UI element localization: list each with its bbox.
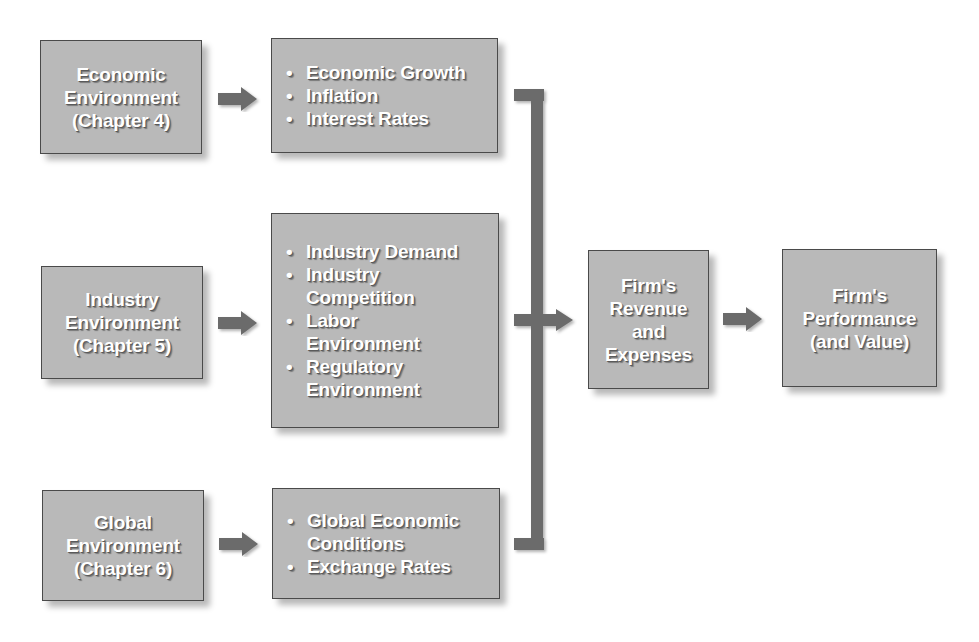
- box-line: Expenses: [605, 343, 692, 366]
- box-line: (and Value): [810, 330, 909, 353]
- bullet-icon: •: [286, 355, 292, 378]
- arrow-right-icon: [217, 86, 261, 112]
- global-factors-box: •Global EconomicConditions •Exchange Rat…: [272, 488, 500, 599]
- list-item: •LaborEnvironment: [284, 309, 498, 355]
- bullet-icon: •: [287, 509, 293, 532]
- list-item: •Exchange Rates: [285, 555, 499, 578]
- bullet-icon: •: [286, 84, 292, 107]
- industry-environment-box: Industry Environment (Chapter 5): [41, 266, 203, 379]
- factor-list: •Industry Demand •IndustryCompetition •L…: [284, 240, 498, 401]
- bullet-icon: •: [287, 555, 293, 578]
- industry-factors-box: •Industry Demand •IndustryCompetition •L…: [271, 213, 499, 428]
- box-line: Firm's: [832, 284, 887, 307]
- list-item: •IndustryCompetition: [284, 263, 498, 309]
- bullet-icon: •: [286, 263, 292, 286]
- arrow-right-icon: [217, 310, 261, 336]
- bullet-icon: •: [286, 240, 292, 263]
- list-item: •Economic Growth: [284, 61, 497, 84]
- box-line: Global: [94, 511, 152, 534]
- box-line: Performance: [803, 307, 917, 330]
- factor-list: •Global EconomicConditions •Exchange Rat…: [285, 509, 499, 578]
- box-line: Environment: [64, 86, 178, 109]
- list-item: •Interest Rates: [284, 107, 497, 130]
- list-item: •RegulatoryEnvironment: [284, 355, 498, 401]
- box-line: (Chapter 5): [73, 334, 171, 357]
- list-item: •Inflation: [284, 84, 497, 107]
- global-environment-box: Global Environment (Chapter 6): [42, 490, 204, 601]
- bullet-icon: •: [286, 61, 292, 84]
- list-item: •Industry Demand: [284, 240, 498, 263]
- box-line: Industry: [85, 288, 158, 311]
- bracket-connector-icon: [510, 85, 580, 555]
- firm-performance-box: Firm's Performance (and Value): [782, 249, 937, 387]
- box-line: and: [632, 320, 665, 343]
- factor-list: •Economic Growth •Inflation •Interest Ra…: [284, 61, 497, 130]
- economic-factors-box: •Economic Growth •Inflation •Interest Ra…: [271, 38, 498, 153]
- box-line: (Chapter 4): [72, 109, 170, 132]
- revenue-expenses-box: Firm's Revenue and Expenses: [588, 250, 709, 389]
- list-item: •Global EconomicConditions: [285, 509, 499, 555]
- box-line: Environment: [66, 534, 180, 557]
- box-line: Firm's: [621, 274, 676, 297]
- box-line: Economic: [76, 63, 165, 86]
- arrow-right-icon: [218, 531, 262, 557]
- arrow-right-icon: [722, 306, 766, 332]
- bullet-icon: •: [286, 107, 292, 130]
- box-line: Revenue: [610, 297, 688, 320]
- bullet-icon: •: [286, 309, 292, 332]
- box-line: (Chapter 6): [74, 557, 172, 580]
- economic-environment-box: Economic Environment (Chapter 4): [40, 40, 202, 154]
- box-line: Environment: [65, 311, 179, 334]
